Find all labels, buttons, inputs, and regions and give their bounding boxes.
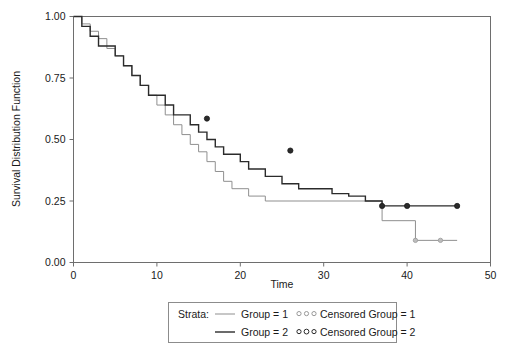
censored-marker xyxy=(455,203,460,208)
chart-canvas: 01020304050 0.000.250.500.751.00 Time Su… xyxy=(0,0,515,359)
y-axis-tick-labels: 0.000.250.500.751.00 xyxy=(45,10,66,268)
x-tick-label: 40 xyxy=(401,269,413,281)
y-tick-label: 1.00 xyxy=(45,10,66,22)
survival-curve-group-1 xyxy=(74,17,458,241)
plot-frame xyxy=(74,17,491,263)
x-tick-label: 20 xyxy=(234,269,246,281)
y-tick-label: 0.25 xyxy=(45,195,66,207)
y-tick-label: 0.75 xyxy=(45,72,66,84)
censored-marker xyxy=(204,116,209,121)
x-axis-title: Time xyxy=(271,278,294,290)
y-tick-label: 0.00 xyxy=(45,256,66,268)
legend-title: Strata: xyxy=(178,308,209,320)
survival-curve-group-2 xyxy=(74,17,458,206)
legend-censored-markers-group-2 xyxy=(297,329,316,334)
censored-marker xyxy=(413,238,417,242)
censored-marker xyxy=(288,148,293,153)
censored-marker xyxy=(438,238,442,242)
x-tick-label: 0 xyxy=(71,269,77,281)
censored-marker xyxy=(379,203,384,208)
legend-label-censored-group-1: Censored Group = 1 xyxy=(320,308,416,320)
legend-label-censored-group-2: Censored Group = 2 xyxy=(320,326,416,338)
legend-label-group-1: Group = 1 xyxy=(241,308,288,320)
censored-markers-layer xyxy=(204,116,459,243)
censored-marker xyxy=(405,203,410,208)
x-tick-label: 30 xyxy=(318,269,330,281)
y-axis-ticks xyxy=(70,17,74,263)
legend-censored-markers-group-1 xyxy=(297,312,316,316)
series-layer xyxy=(74,17,458,241)
legend-label-group-2: Group = 2 xyxy=(241,326,288,338)
survival-chart-figure: 01020304050 0.000.250.500.751.00 Time Su… xyxy=(0,0,515,359)
x-axis-ticks xyxy=(74,263,491,267)
y-axis-title: Survival Distribution Function xyxy=(10,71,22,207)
x-tick-label: 10 xyxy=(151,269,163,281)
y-tick-label: 0.50 xyxy=(45,133,66,145)
x-tick-label: 50 xyxy=(485,269,497,281)
legend: Strata: Group = 1 Censored Group = 1 Gro… xyxy=(169,303,416,343)
